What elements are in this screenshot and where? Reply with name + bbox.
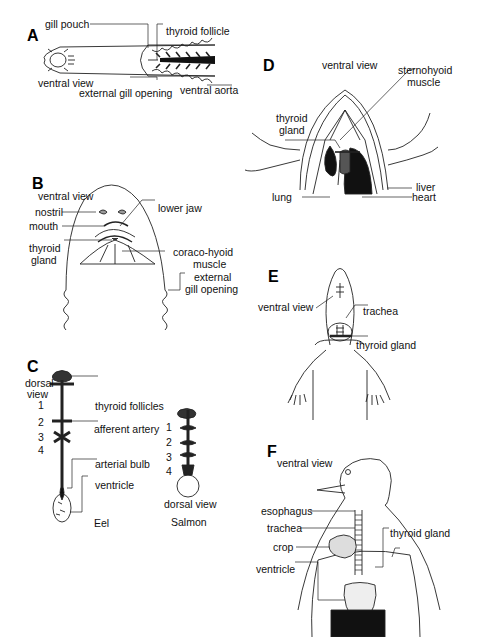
label-heart: heart <box>412 192 436 203</box>
label-ventricle-c: ventricle <box>95 480 134 491</box>
label-thyroid-gland-e: thyroid gland <box>356 340 416 351</box>
salmon-number-1: 1 <box>166 421 172 433</box>
label-thyroid-gland-d-1: thyroid <box>276 113 308 124</box>
salmon-number-2: 2 <box>166 436 172 448</box>
label-ventral-view-e: ventral view <box>258 302 313 313</box>
label-trachea-f: trachea <box>267 523 302 534</box>
label-arterial-bulb: arterial bulb <box>95 459 150 470</box>
label-coraco-hyoid-1: coraco-hyoid <box>173 247 233 258</box>
label-thyroid-gland-b-1: thyroid <box>29 243 61 254</box>
label-sternohyoid-1: sternohyoid <box>398 65 452 76</box>
label-eel: Eel <box>94 518 109 529</box>
eel-number-2: 2 <box>38 416 44 428</box>
panel-letter-f: F <box>267 443 277 461</box>
label-lung: lung <box>272 192 292 203</box>
label-ventral-view-d: ventral view <box>322 60 377 71</box>
label-esophagus: esophagus <box>261 506 312 517</box>
label-external-gill-opening-a: external gill opening <box>79 88 172 99</box>
diagram-artwork <box>0 0 478 637</box>
label-mouth: mouth <box>29 221 58 232</box>
label-coraco-hyoid-2: muscle <box>193 259 226 270</box>
label-external-gill-b-1: external <box>194 272 231 283</box>
eel-number-4: 4 <box>38 444 44 456</box>
panel-letter-d: D <box>263 57 275 75</box>
eel-number-1: 1 <box>38 399 44 411</box>
label-thyroid-gland-b-2: gland <box>31 255 57 266</box>
label-thyroid-follicles: thyroid follicles <box>95 401 164 412</box>
label-ventral-view-b: ventral view <box>38 191 93 202</box>
label-ventral-aorta: ventral aorta <box>180 85 238 96</box>
label-thyroid-follicle: thyroid follicle <box>166 26 230 37</box>
label-thyroid-gland-d-2: gland <box>279 125 305 136</box>
label-salmon: Salmon <box>171 517 207 528</box>
label-thyroid-gland-f: thyroid gland <box>390 528 450 539</box>
salmon-number-3: 3 <box>166 451 172 463</box>
label-afferent-artery: afferent artery <box>94 424 159 435</box>
label-lower-jaw: lower jaw <box>158 203 202 214</box>
label-ventricle-f: ventricle <box>256 564 295 575</box>
label-crop: crop <box>273 542 293 553</box>
panel-letter-a: A <box>27 27 39 45</box>
label-ventral-view-f: ventral view <box>277 458 332 469</box>
label-external-gill-b-2: gill opening <box>185 284 238 295</box>
panel-f-bird-drawing <box>295 459 440 637</box>
label-nostril: nostril <box>35 207 63 218</box>
label-gill-pouch: gill pouch <box>45 19 89 30</box>
label-salmon-dorsal-view: dorsal view <box>164 499 217 510</box>
eel-number-3: 3 <box>38 431 44 443</box>
label-sternohyoid-2: muscle <box>407 77 440 88</box>
panel-d-frog-drawing <box>245 69 438 197</box>
panel-letter-c: C <box>27 358 39 376</box>
panel-letter-e: E <box>268 268 279 286</box>
label-trachea-e: trachea <box>363 306 398 317</box>
salmon-number-4: 4 <box>166 465 172 477</box>
